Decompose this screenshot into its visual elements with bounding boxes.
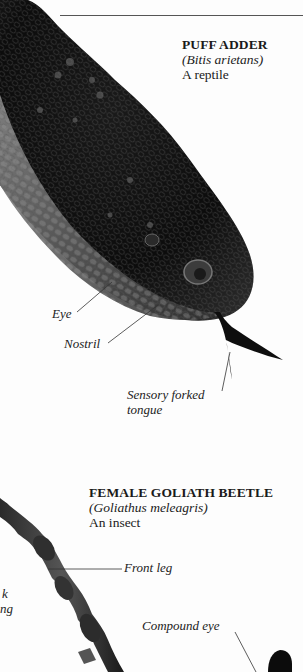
goliath-beetle-caption: FEMALE GOLIATH BEETLE (Goliathus meleagr… — [89, 485, 273, 530]
label-front-leg: Front leg — [124, 560, 172, 575]
label-tongue-line1: Sensory forked — [127, 387, 205, 402]
puff-adder-class: A reptile — [182, 67, 268, 82]
nostril-leader-line — [108, 305, 158, 343]
label-cut-off-line1: k — [0, 586, 13, 601]
label-cut-off-line2: ng — [0, 601, 13, 616]
label-compound-eye: Compound eye — [142, 618, 220, 633]
forked-tongue — [214, 312, 283, 380]
label-nostril: Nostril — [64, 336, 100, 351]
puff-adder-name: PUFF ADDER — [182, 37, 268, 52]
goliath-beetle-name: FEMALE GOLIATH BEETLE — [89, 485, 273, 500]
label-cut-off: k ng — [0, 586, 13, 616]
top-divider-rule — [60, 15, 303, 16]
puff-adder-latin-name: (Bitis arietans) — [182, 52, 268, 67]
label-tongue: Sensory forked tongue — [127, 387, 205, 417]
puff-adder-caption: PUFF ADDER (Bitis arietans) A reptile — [182, 37, 268, 82]
label-tongue-line2: tongue — [127, 402, 205, 417]
compound-eye-leader-line — [235, 632, 256, 672]
label-eye: Eye — [52, 306, 71, 321]
goliath-beetle-latin-name: (Goliathus meleagris) — [89, 500, 273, 515]
goliath-beetle-class: An insect — [89, 515, 273, 530]
tongue-leader-line — [222, 352, 230, 391]
